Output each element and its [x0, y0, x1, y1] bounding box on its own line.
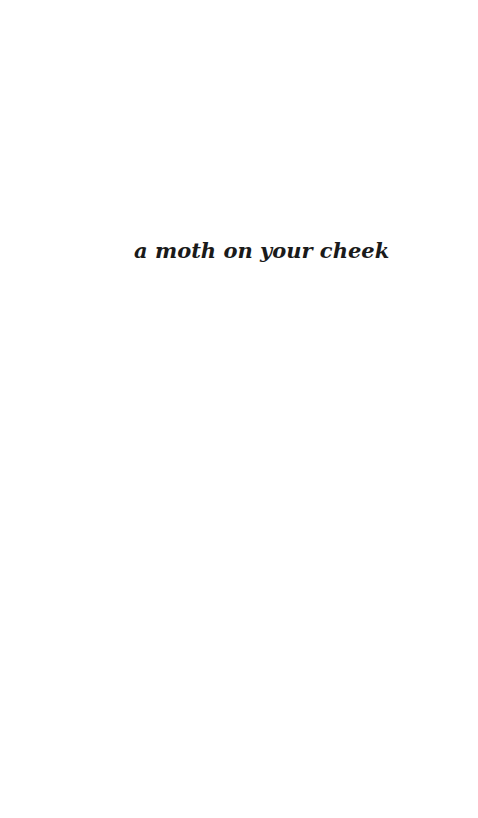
book-page: a moth on your cheek [0, 0, 478, 818]
half-title: a moth on your cheek [134, 236, 389, 266]
